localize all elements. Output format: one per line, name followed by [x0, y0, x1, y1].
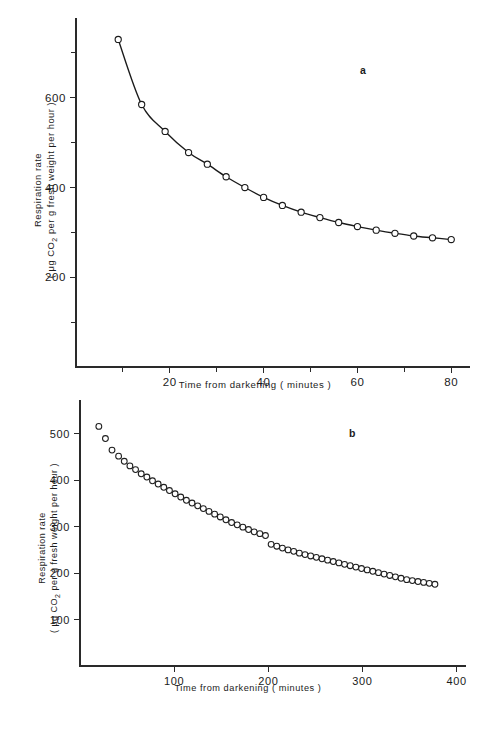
panel-letter-b: b [349, 427, 356, 439]
data-point-marker [185, 149, 191, 155]
data-point-marker [212, 511, 218, 517]
data-point-marker [280, 545, 286, 551]
data-point-marker [155, 481, 161, 487]
data-point-marker [376, 570, 382, 576]
data-point-marker [178, 494, 184, 500]
data-point-marker [263, 533, 269, 539]
data-point-marker [161, 484, 167, 490]
data-point-marker [317, 214, 323, 220]
data-point-marker [109, 447, 115, 453]
panel-a-data-markers [115, 36, 454, 242]
data-point-marker [415, 579, 421, 585]
data-point-marker [330, 559, 336, 565]
data-point-marker [370, 568, 376, 574]
data-point-marker [195, 503, 201, 509]
panel-b-ticks [74, 434, 457, 672]
data-point-marker [398, 575, 404, 581]
data-point-marker [411, 233, 417, 239]
data-point-marker [336, 560, 342, 566]
data-point-marker [240, 524, 246, 530]
panel-a-curve [118, 39, 451, 239]
chart-panel-a: 20040060020406080 Time from darkening ( … [0, 0, 481, 395]
data-point-marker [133, 467, 139, 473]
data-point-marker [223, 517, 229, 523]
panel-a-tick-labels: 20040060020406080 [45, 92, 458, 388]
data-point-marker [342, 561, 348, 567]
data-point-marker [261, 194, 267, 200]
data-point-marker [242, 184, 248, 190]
data-point-marker [217, 514, 223, 520]
data-point-marker [308, 553, 314, 559]
panel-letter-a: a [360, 64, 366, 76]
data-point-marker [257, 531, 263, 537]
data-point-marker [381, 571, 387, 577]
panel-b-data-markers [96, 424, 438, 588]
data-point-marker [162, 128, 168, 134]
data-point-marker [204, 161, 210, 167]
data-point-marker [138, 471, 144, 477]
panel-a-y-axis-title-line1: Respiration rate [32, 153, 43, 227]
data-point-marker [373, 227, 379, 233]
panel-b-y-tick-label: 500 [50, 428, 70, 440]
panel-a-x-tick-label: 60 [350, 376, 364, 388]
data-point-marker [246, 527, 252, 533]
data-point-marker [183, 497, 189, 503]
panel-a-axis-spines [76, 18, 470, 367]
data-point-marker [268, 541, 274, 547]
figure-root: 20040060020406080 Time from darkening ( … [0, 0, 481, 733]
data-point-marker [387, 573, 393, 579]
panel-b-x-axis-title: Time from darkening ( minutes ) [175, 683, 322, 693]
panel-a-x-tick-label: 20 [163, 376, 177, 388]
data-point-marker [426, 580, 432, 586]
data-point-marker [392, 574, 398, 580]
data-point-marker [298, 209, 304, 215]
panel-a-y-axis-title-line2: ( μg CO2 per g fresh weight per hour ) [45, 102, 58, 278]
panel-b-y-axis-title-group2: ( μg CO2 per g fresh weight per hour ) [49, 463, 61, 633]
data-point-marker [96, 424, 102, 430]
data-point-marker [251, 529, 257, 535]
panel-a-plot: 20040060020406080 Time from darkening ( … [0, 0, 481, 395]
data-point-marker [325, 557, 331, 563]
panel-a-ticks [70, 53, 451, 373]
data-point-marker [302, 552, 308, 558]
data-point-marker [139, 101, 145, 107]
data-point-marker [359, 566, 365, 572]
data-point-marker [392, 230, 398, 236]
panel-b-y-axis-title-line2: ( μg CO2 per g fresh weight per hour ) [49, 463, 61, 633]
data-point-marker [291, 548, 297, 554]
data-point-marker [448, 236, 454, 242]
data-point-marker [172, 491, 178, 497]
data-point-marker [189, 500, 195, 506]
data-point-marker [409, 578, 415, 584]
data-point-marker [353, 564, 359, 570]
data-point-marker [432, 581, 438, 587]
data-point-marker [285, 547, 291, 553]
panel-a-x-tick-label: 80 [444, 376, 458, 388]
data-point-marker [116, 453, 122, 459]
data-point-marker [296, 550, 302, 556]
data-point-marker [200, 506, 206, 512]
data-point-marker [127, 463, 133, 469]
data-point-marker [319, 556, 325, 562]
panel-b-tick-labels: 100200300400500100200300400 [50, 428, 467, 687]
data-point-marker [206, 508, 212, 514]
data-point-marker [404, 577, 410, 583]
data-point-marker [167, 488, 173, 494]
panel-b-plot: 100200300400500100200300400 Time from da… [0, 388, 481, 733]
panel-a-axes [76, 18, 470, 367]
panel-a-data-series [118, 39, 451, 239]
panel-b-x-tick-label: 400 [447, 675, 467, 687]
data-point-marker [279, 202, 285, 208]
data-point-marker [429, 235, 435, 241]
data-point-marker [121, 458, 127, 464]
data-point-marker [229, 520, 235, 526]
data-point-marker [115, 36, 121, 42]
panel-b-axis-spines [80, 400, 466, 666]
panel-a-y-axis-title-group: Respiration rate [32, 153, 43, 227]
data-point-marker [274, 543, 280, 549]
data-point-marker [103, 436, 109, 442]
data-point-marker [313, 554, 319, 560]
data-point-marker [347, 563, 353, 569]
panel-b-axes [80, 400, 466, 666]
chart-panel-b: 100200300400500100200300400 Time from da… [0, 388, 481, 733]
